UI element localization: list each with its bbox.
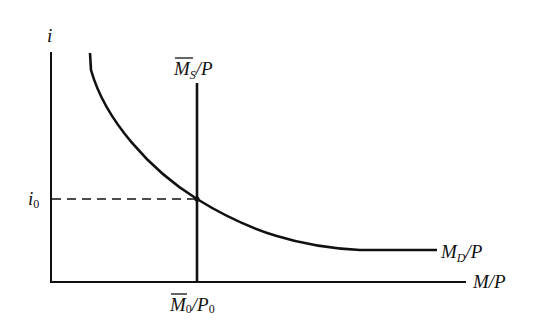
equilibrium-rate-label: i0 (28, 188, 39, 211)
money-demand-label: MD/P (440, 241, 483, 265)
svg-text:M0/P0: M0/P0 (169, 294, 215, 316)
money-demand-curve (90, 53, 437, 250)
x-axis-label: M/P (472, 271, 506, 292)
equilibrium-quantity-label: M0/P0 (169, 294, 215, 316)
equilibrium-point (194, 196, 199, 201)
y-axis-label: i (47, 25, 52, 46)
svg-text:MD/P: MD/P (440, 241, 483, 265)
svg-text:MS/P: MS/P (173, 58, 213, 82)
money-supply-label: MS/P (173, 58, 213, 82)
svg-text:i0: i0 (28, 188, 39, 211)
money-market-diagram: i M/P MS/P MD/P i0 M0/P0 (0, 0, 537, 329)
